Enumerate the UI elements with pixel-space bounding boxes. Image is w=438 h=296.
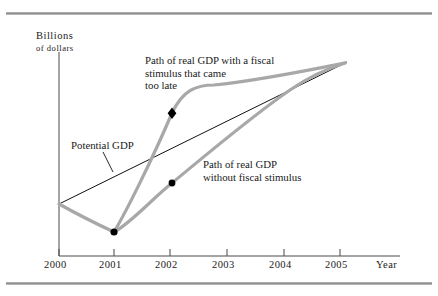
annotation-potential-gdp: Potential GDP (71, 139, 134, 152)
annotation-no-stimulus-line2: without fiscal stimulus (203, 171, 301, 184)
x-tick-label-2000: 2000 (44, 259, 67, 270)
figure-container: Billions of dollars 2000 2001 2002 2003 … (0, 0, 438, 296)
annotation-no-stimulus: Path of real GDP without fiscal stimulus (203, 158, 301, 183)
marker-no-stimulus-2002 (169, 180, 176, 187)
y-axis-label-line2: of dollars (36, 43, 74, 53)
annotation-late-stimulus-line2: stimulus that came (145, 67, 274, 80)
recession-segment-curve (59, 204, 114, 232)
x-tick-label-2004: 2004 (269, 259, 292, 270)
annotation-late-stimulus: Path of real GDP with a fiscal stimulus … (145, 54, 274, 92)
potential-gdp-leader-line (103, 152, 113, 172)
x-tick-label-2005: 2005 (325, 259, 348, 270)
x-tick-label-2003: 2003 (212, 259, 235, 270)
x-tick-label-2001: 2001 (99, 259, 122, 270)
x-axis-label: Year (376, 259, 397, 270)
y-axis-label-line1: Billions (36, 30, 73, 41)
marker-trough-2001 (110, 228, 117, 235)
x-tick-label-2002: 2002 (155, 259, 178, 270)
annotation-no-stimulus-line1: Path of real GDP (203, 158, 301, 171)
annotation-late-stimulus-line1: Path of real GDP with a fiscal (145, 54, 274, 67)
annotation-late-stimulus-line3: too late (145, 79, 274, 92)
